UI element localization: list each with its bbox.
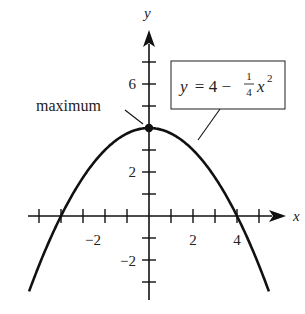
x-tick-label-neg2: −2 <box>85 232 101 248</box>
y-tick-label-6: 6 <box>129 76 137 92</box>
x-tick-label-4: 4 <box>233 232 241 248</box>
y-tick-label-2: 2 <box>129 164 137 180</box>
parabola-diagram: x y −2 2 4 6 2 −2 maximum y = 4 − 1 4 x … <box>0 0 305 314</box>
equation-leader-line <box>198 109 220 140</box>
x-axis <box>28 209 286 223</box>
fraction-denominator: 4 <box>246 86 252 98</box>
fraction-numerator: 1 <box>246 70 252 82</box>
x-tick-label-2: 2 <box>189 232 197 248</box>
y-axis-label: y <box>142 5 151 21</box>
svg-text:y = 4 −: y = 4 − <box>178 77 231 96</box>
maximum-leader-line <box>125 110 143 124</box>
maximum-label: maximum <box>36 97 101 114</box>
vertex-point <box>145 124 153 132</box>
equation-exponent: 2 <box>267 72 273 84</box>
x-axis-label: x <box>292 208 300 224</box>
equation-variable: x <box>256 77 265 96</box>
y-tick-label-neg2: −2 <box>120 253 136 269</box>
y-axis <box>142 30 156 300</box>
